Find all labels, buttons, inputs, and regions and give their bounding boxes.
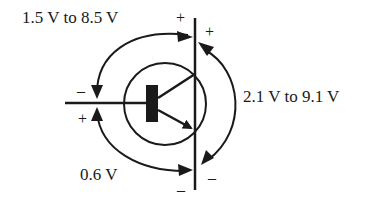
vbe-arrow-emitter bbox=[178, 164, 193, 176]
vce-arc bbox=[205, 50, 235, 160]
vbe-label: 0.6 V bbox=[80, 166, 117, 183]
vbc-range-label: 1.5 V to 8.5 V bbox=[22, 9, 118, 26]
emitter-line bbox=[158, 110, 191, 128]
transistor-diagram: 1.5 V to 8.5 V 2.1 V to 9.1 V 0.6 V + + … bbox=[0, 0, 380, 207]
vbe-arrow-base-bottom bbox=[91, 107, 103, 121]
vce-range-label: 2.1 V to 9.1 V bbox=[243, 88, 339, 105]
base-plus: + bbox=[78, 111, 87, 127]
base-bar bbox=[146, 85, 158, 122]
base-minus: – bbox=[77, 83, 85, 99]
emitter-minus-left: – bbox=[177, 182, 185, 198]
emitter-minus-right: – bbox=[208, 170, 216, 186]
vce-arrow-emitter bbox=[201, 150, 214, 165]
collector-plus-right: + bbox=[205, 24, 214, 40]
vbc-arrow-top bbox=[177, 31, 193, 42]
vbe-arc bbox=[97, 112, 188, 171]
vbc-arrow-base-top bbox=[91, 85, 103, 99]
collector-line bbox=[158, 74, 195, 98]
collector-plus-left: + bbox=[176, 10, 185, 26]
